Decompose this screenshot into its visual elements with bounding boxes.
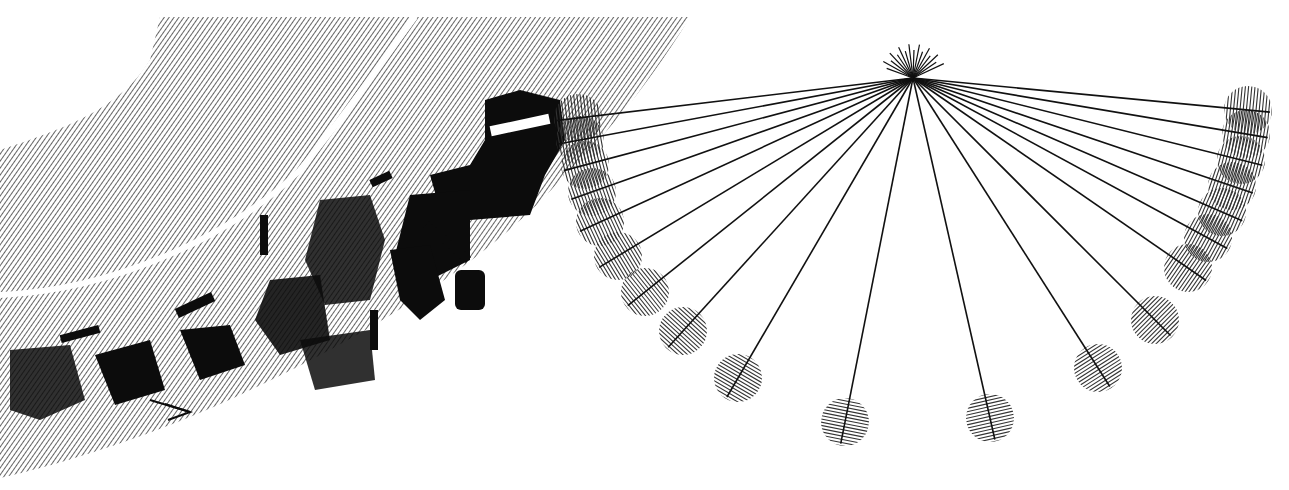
fan-ray (841, 78, 913, 444)
fan-ray (727, 78, 913, 397)
fan-ray (913, 78, 1110, 387)
illustration (0, 0, 1289, 490)
fan-ray (913, 78, 1268, 138)
fan-ray (913, 78, 995, 439)
radial-fan (551, 44, 1274, 450)
fan-ray (913, 78, 1242, 221)
fan-ray (913, 78, 1206, 281)
fan-ray (668, 78, 913, 347)
fan-ray (628, 78, 913, 306)
fan-ray (913, 78, 1262, 165)
burst-ray (891, 61, 913, 78)
fan-ray (913, 78, 1253, 193)
fan-ray (913, 78, 1171, 336)
